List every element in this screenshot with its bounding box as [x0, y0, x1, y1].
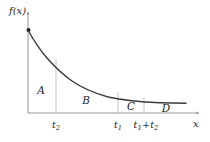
x-tick-label-t1: t1	[114, 120, 122, 132]
x-axis-label: x	[193, 119, 199, 129]
tick-sub-t2b: 2	[154, 124, 158, 132]
x-tick-label-t2: t2	[52, 120, 60, 132]
curve-start-marker	[26, 28, 30, 32]
y-axis-label: f(x)	[9, 6, 26, 16]
tick-sub-t2: 2	[56, 124, 60, 132]
figure-canvas	[0, 0, 210, 142]
exponential-decay-figure: f(x) x A B C D t2 t1 t1+t2	[0, 0, 210, 142]
tick-operator-plus: +	[142, 120, 151, 130]
region-label-b: B	[82, 95, 90, 106]
region-label-c: C	[127, 101, 135, 112]
region-label-d: D	[162, 103, 170, 114]
plot-background	[0, 0, 210, 142]
region-label-a: A	[37, 85, 45, 96]
x-tick-label-t1-plus-t2: t1+t2	[134, 120, 159, 132]
tick-sub-t1: 1	[118, 124, 122, 132]
